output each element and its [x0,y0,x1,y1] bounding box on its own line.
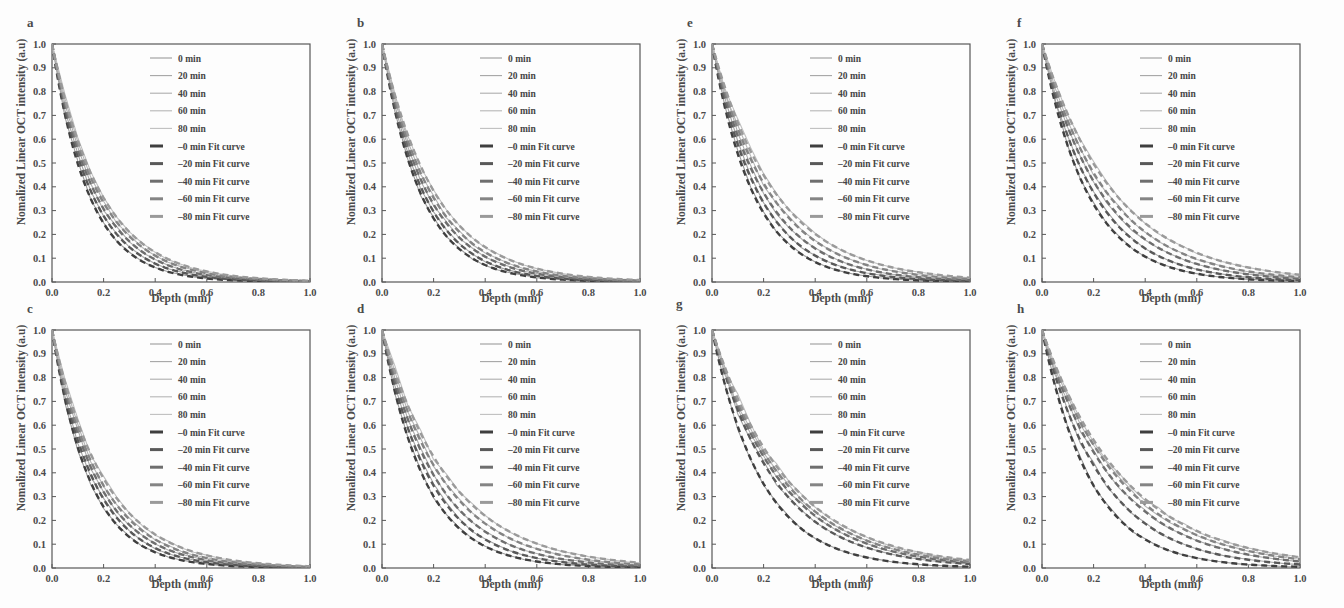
legend-label: 20 min [178,357,206,367]
plot-area-c: 0.00.10.20.30.40.50.60.70.80.91.00.00.20… [0,300,336,604]
y-tick-label: 0.2 [363,515,376,526]
x-tick-label: 1.0 [633,573,646,584]
panel-h: hNomalized Linear OCT intensity (a.u)Dep… [990,300,1326,604]
y-tick-label: 1.0 [33,325,46,336]
y-tick-label: 0.4 [363,181,377,192]
x-tick-label: 0.0 [375,573,388,584]
legend-label: 80 min [178,124,206,134]
legend-label: 0 min [1168,340,1192,350]
x-tick-label: 1.0 [303,287,316,298]
legend-label: –80 min Fit curve [837,498,910,508]
y-tick-label: 0.7 [693,396,706,407]
legend-label: 20 min [1168,71,1196,81]
y-tick-label: 0.0 [33,563,46,574]
y-tick-label: 0.8 [363,372,376,383]
x-tick-label: 0.4 [809,287,823,298]
x-tick-label: 0.6 [200,573,213,584]
y-tick-label: 0.5 [33,158,46,169]
legend-label: 40 min [508,375,536,385]
legend-label: –80 min Fit curve [1167,498,1240,508]
y-tick-label: 0.8 [33,372,46,383]
x-tick-label: 0.0 [45,287,58,298]
y-tick-label: 0.9 [33,62,46,73]
legend-label: 40 min [508,89,536,99]
panel-d: dNomalized Linear OCT intensity (a.u)Dep… [330,300,666,604]
y-tick-label: 0.3 [33,205,46,216]
x-tick-label: 1.0 [963,287,976,298]
x-tick-label: 0.2 [427,287,440,298]
y-tick-label: 0.2 [33,229,46,240]
x-tick-label: 0.4 [479,573,493,584]
x-tick-label: 0.4 [149,573,163,584]
legend-label: 60 min [178,392,206,402]
x-tick-label: 0.2 [1087,287,1100,298]
y-tick-label: 0.9 [1023,62,1036,73]
plot-area-a: 0.00.10.20.30.40.50.60.70.80.91.00.00.20… [0,14,336,318]
legend-label: –80 min Fit curve [1167,212,1240,222]
y-tick-label: 0.3 [363,491,376,502]
legend-label: 20 min [1168,357,1196,367]
panel-a: aNomalized Linear OCT intensity (a.u)Dep… [0,14,336,318]
y-tick-label: 0.3 [693,205,706,216]
y-tick-label: 0.3 [1023,205,1036,216]
legend-label: –60 min Fit curve [507,194,580,204]
y-tick-label: 0.7 [363,396,376,407]
legend-label: –0 min Fit curve [837,428,905,438]
legend-label: 80 min [1168,124,1196,134]
y-tick-label: 1.0 [33,39,46,50]
y-tick-label: 0.5 [1023,444,1036,455]
x-tick-label: 0.6 [200,287,213,298]
y-tick-label: 0.2 [363,229,376,240]
legend-label: –80 min Fit curve [837,212,910,222]
x-tick-label: 0.8 [1242,287,1255,298]
y-tick-label: 0.9 [33,348,46,359]
legend-label: 0 min [178,54,202,64]
legend-label: –40 min Fit curve [1167,463,1240,473]
legend-label: 20 min [508,357,536,367]
x-tick-label: 0.8 [252,287,265,298]
legend-label: 40 min [838,375,866,385]
x-tick-label: 0.6 [1190,573,1203,584]
y-tick-label: 0.1 [1023,253,1036,264]
y-tick-label: 0.7 [1023,110,1036,121]
plot-area-h: 0.00.10.20.30.40.50.60.70.80.91.00.00.20… [990,300,1326,604]
legend-label: –40 min Fit curve [1167,177,1240,187]
y-tick-label: 0.7 [1023,396,1036,407]
y-tick-label: 0.3 [363,205,376,216]
legend-label: –60 min Fit curve [837,194,910,204]
legend-label: 0 min [508,340,532,350]
y-tick-label: 0.4 [33,467,47,478]
legend-label: –0 min Fit curve [1167,428,1235,438]
y-tick-label: 0.1 [693,539,706,550]
y-tick-label: 0.1 [33,539,46,550]
x-tick-label: 0.8 [252,573,265,584]
x-tick-label: 0.8 [582,287,595,298]
y-tick-label: 0.6 [33,420,46,431]
panel-f: fNomalized Linear OCT intensity (a.u)Dep… [990,14,1326,318]
panel-b: bNomalized Linear OCT intensity (a.u)Dep… [330,14,666,318]
x-tick-label: 0.0 [705,573,718,584]
y-tick-label: 0.0 [33,277,46,288]
x-tick-label: 0.2 [1087,573,1100,584]
x-tick-label: 0.6 [860,573,873,584]
y-tick-label: 0.6 [1023,420,1036,431]
y-tick-label: 1.0 [693,39,706,50]
panel-g: gNomalized Linear OCT intensity (a.u)Dep… [660,300,996,604]
y-tick-label: 0.9 [363,62,376,73]
x-tick-label: 0.0 [1035,573,1048,584]
x-tick-label: 0.4 [149,287,163,298]
y-tick-label: 0.4 [693,181,707,192]
x-tick-label: 0.4 [479,287,493,298]
legend-label: –80 min Fit curve [177,212,250,222]
legend-label: –60 min Fit curve [507,480,580,490]
y-tick-label: 0.6 [363,420,376,431]
legend-label: –80 min Fit curve [507,212,580,222]
legend-label: 80 min [838,124,866,134]
y-tick-label: 0.6 [693,134,706,145]
y-tick-label: 0.2 [693,515,706,526]
x-tick-label: 0.8 [582,573,595,584]
x-tick-label: 1.0 [1293,287,1306,298]
x-tick-label: 0.2 [97,287,110,298]
x-tick-label: 1.0 [633,287,646,298]
legend-label: –20 min Fit curve [507,159,580,169]
